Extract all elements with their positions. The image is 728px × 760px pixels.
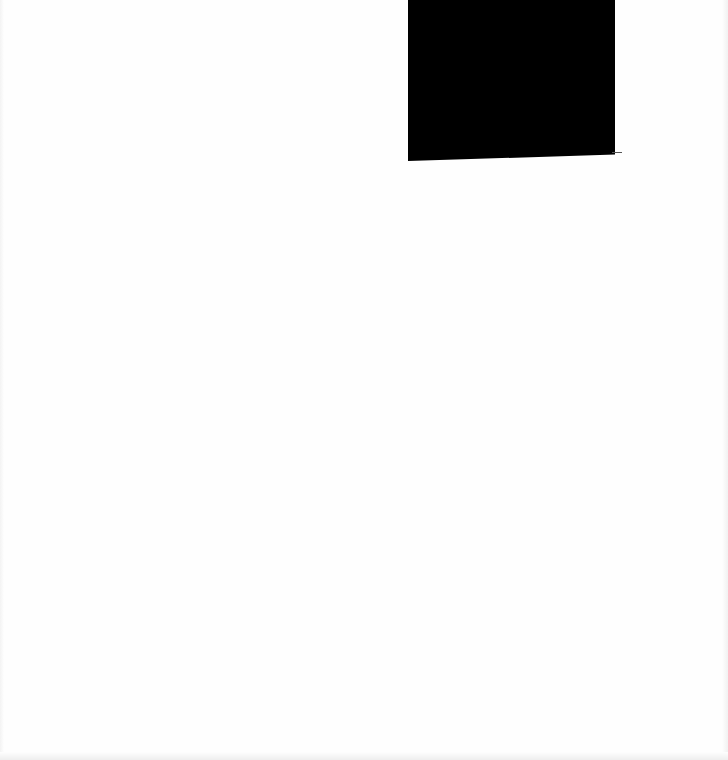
redaction-edge-line: [612, 152, 622, 153]
redaction-block: [408, 0, 615, 161]
scan-edge-bottom: [0, 752, 728, 760]
document-page: [0, 0, 728, 760]
scan-edge-right: [722, 0, 728, 760]
scan-edge-left: [0, 0, 4, 760]
